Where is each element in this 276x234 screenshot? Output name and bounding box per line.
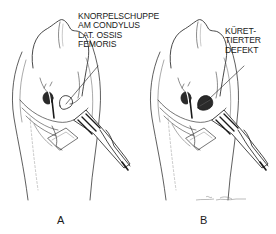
artist-signature [196, 196, 246, 200]
annotation-label-a: KNORPELSCHUPPE AM CONDYLUS LAT. OSSIS FE… [78, 12, 159, 50]
retractor-b [212, 110, 268, 170]
panel-letter-a: A [57, 214, 64, 226]
panel-letter-b: B [200, 214, 207, 226]
surgical-illustration: KNORPELSCHUPPE AM CONDYLUS LAT. OSSIS FE… [0, 0, 276, 234]
annotation-label-b: KÜRET- TIERTER DEFEKT [225, 27, 261, 55]
label-b-line-3: DEFEKT [225, 46, 261, 55]
retractor-a [74, 110, 130, 170]
label-a-line-4: FEMORIS [78, 40, 159, 49]
